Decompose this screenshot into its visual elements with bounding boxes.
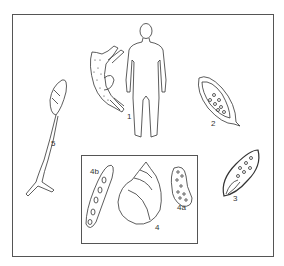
egg-2 xyxy=(198,77,240,126)
label-4b: 4b xyxy=(90,168,99,176)
label-1: 1 xyxy=(127,113,131,121)
life-cycle-illustration xyxy=(0,0,284,266)
egg-3 xyxy=(223,150,259,196)
label-2: 2 xyxy=(211,120,215,128)
cercaria-5 xyxy=(26,80,67,196)
label-5: 5 xyxy=(51,140,55,148)
snail-4 xyxy=(118,162,161,224)
adult-worm-pair xyxy=(90,46,124,112)
label-4: 4 xyxy=(155,224,159,232)
human-host-figure xyxy=(126,24,166,138)
label-3: 3 xyxy=(233,195,237,203)
label-4a: 4a xyxy=(177,204,186,212)
miracidium-4a xyxy=(171,167,192,206)
